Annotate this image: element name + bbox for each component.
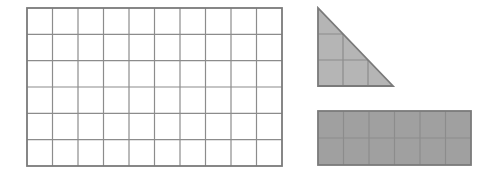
shaded-grid-rectangle — [318, 111, 471, 165]
large-unshaded-grid-rectangle — [27, 8, 282, 166]
shaded-right-triangle — [318, 8, 393, 86]
grid-shapes-figure — [0, 0, 492, 179]
